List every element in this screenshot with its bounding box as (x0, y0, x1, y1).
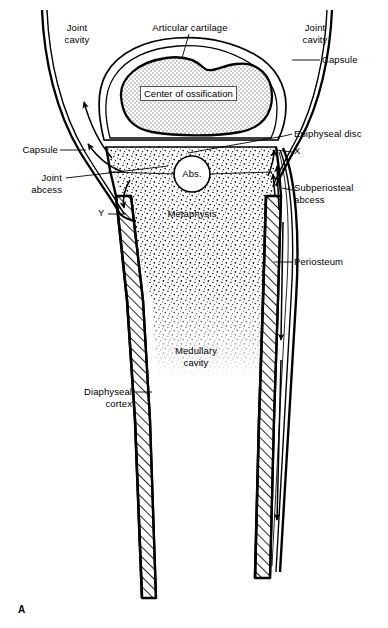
label-articular-cartilage: Articular cartilage (134, 22, 246, 34)
label-joint-cavity-left: Joint cavity (48, 22, 106, 45)
label-joint-abcess: Joint abcess (6, 172, 62, 195)
label-marker-y: Y (98, 207, 104, 219)
label-capsule-top-right: Capsule (322, 54, 358, 66)
label-medullary-cavity: Medullary cavity (164, 345, 228, 368)
label-marker-x: X (294, 145, 300, 157)
leader-subperiosteal-2 (282, 188, 292, 190)
label-subperiosteal-abcess: Subperiosteal abcess (294, 182, 380, 205)
figure-panel: Joint cavity Joint cavity Articular cart… (0, 0, 388, 628)
panel-label: A (18, 604, 25, 615)
label-diaphyseal-cortex: Diaphyseal cortex (58, 386, 132, 409)
label-center-of-ossification: Center of ossification (140, 86, 237, 101)
label-periosteum: Periosteum (294, 256, 343, 268)
leader-epiphyseal-disc-2 (284, 134, 292, 136)
label-metaphysis: Metaphysis (152, 208, 232, 220)
label-epiphyseal-disc: Epiphyseal disc (294, 128, 362, 140)
label-capsule-left: Capsule (2, 144, 58, 156)
label-abscess-short: Abs. (174, 168, 210, 180)
arrow-down-subperiosteal (281, 222, 283, 340)
label-joint-cavity-right: Joint cavity (286, 22, 344, 45)
